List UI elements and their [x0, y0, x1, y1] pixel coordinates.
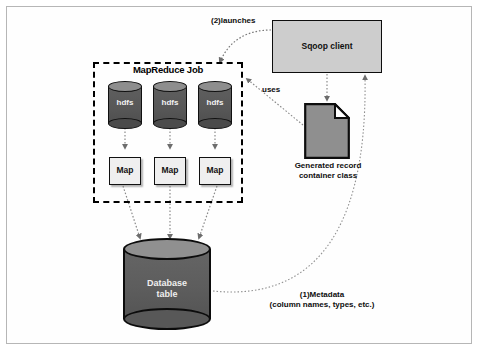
cylinder-top — [123, 238, 211, 260]
hdfs-store-label: hdfs — [153, 98, 187, 107]
cylinder-top — [153, 81, 187, 92]
hdfs-store-label: hdfs — [108, 98, 142, 107]
generated-record-label-line2: container class — [282, 171, 374, 181]
cylinder-bottom — [153, 118, 187, 129]
generated-record-document-icon — [304, 103, 350, 159]
mapper-1: Map — [109, 157, 141, 185]
diagram-canvas: MapReduce Job hdfs hdfs hdfs Map Map Map… — [0, 0, 480, 352]
mapper-label: Map — [200, 165, 230, 175]
sqoop-client-box: Sqoop client — [272, 20, 382, 73]
generated-record-label-line1: Generated record — [282, 161, 374, 171]
edge-label-metadata-line2: (column names, types, etc.) — [237, 300, 407, 310]
mapreduce-job-label: MapReduce Job — [93, 64, 243, 75]
mapper-label: Map — [155, 165, 185, 175]
hdfs-store-2: hdfs — [153, 81, 187, 129]
sqoop-client-label: Sqoop client — [273, 41, 381, 51]
mapper-label: Map — [110, 165, 140, 175]
edge-launches — [220, 30, 271, 62]
edge-label-uses: uses — [262, 85, 280, 94]
cylinder-bottom — [108, 118, 142, 129]
database-table-cylinder: Database table — [123, 238, 211, 330]
database-table-label-line2: table — [123, 289, 211, 300]
mapper-2: Map — [154, 157, 186, 185]
cylinder-bottom — [198, 118, 232, 129]
edge-label-launches: (2)launches — [211, 16, 255, 25]
edge-label-metadata-line1: (1)Metadata — [237, 290, 407, 300]
generated-record-label: Generated record container class — [282, 161, 374, 181]
mapper-3: Map — [199, 157, 231, 185]
database-table-label-line1: Database — [123, 278, 211, 289]
cylinder-top — [198, 81, 232, 92]
edge-label-metadata: (1)Metadata (column names, types, etc.) — [237, 290, 407, 310]
cylinder-bottom — [123, 308, 211, 330]
hdfs-store-1: hdfs — [108, 81, 142, 129]
hdfs-store-3: hdfs — [198, 81, 232, 129]
hdfs-store-label: hdfs — [198, 98, 232, 107]
database-table-label: Database table — [123, 278, 211, 300]
cylinder-top — [108, 81, 142, 92]
